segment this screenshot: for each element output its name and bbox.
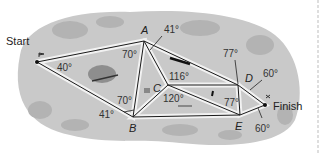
- vertex-a-label: A: [140, 24, 148, 36]
- angle-d-right: 60°: [263, 68, 278, 79]
- vertex-c-label: C: [153, 82, 161, 94]
- angle-c-upper: 116°: [169, 71, 189, 82]
- angle-b-lower: 41°: [99, 109, 114, 120]
- angle-a-left: 70°: [122, 49, 137, 60]
- bench-mark: [178, 105, 192, 107]
- angle-start: 40°: [57, 62, 72, 73]
- angle-finish-lower: 60°: [255, 123, 270, 134]
- start-point: [35, 60, 39, 64]
- map-diagram: Start Finish A B C D E 40° 70° 41° 70° 4…: [0, 0, 321, 154]
- post-mark: [212, 91, 213, 96]
- angle-e: 77°: [224, 97, 239, 108]
- vertex-d-label: D: [245, 72, 253, 84]
- finish-label: Finish: [273, 100, 302, 112]
- angle-a-right: 41°: [164, 24, 179, 35]
- vertex-b-label: B: [129, 122, 136, 134]
- angle-b-upper: 70°: [117, 95, 132, 106]
- angle-d: 77°: [223, 48, 238, 59]
- rock-mark: [144, 88, 150, 93]
- angle-c-lower: 120°: [163, 93, 184, 104]
- finish-point: [263, 103, 267, 107]
- vertex-e-label: E: [235, 120, 243, 132]
- start-label: Start: [6, 35, 29, 47]
